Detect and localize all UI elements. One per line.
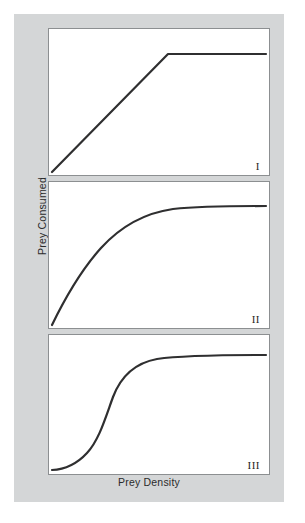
figure-plate: Prey Consumed I II III Prey Density — [14, 14, 284, 502]
credit-strip — [291, 414, 300, 518]
panel-label-2: II — [252, 313, 260, 325]
panel-type-1: I — [48, 28, 270, 176]
y-axis-label: Prey Consumed — [36, 146, 48, 286]
panel-label-1: I — [256, 160, 260, 172]
curve-line-type-3 — [52, 355, 266, 470]
panel-label-3: III — [248, 459, 261, 471]
panel-type-3: III — [48, 334, 270, 475]
curve-line-type-2 — [52, 206, 266, 325]
curve-plot-type-2 — [49, 182, 269, 328]
x-axis-label: Prey Density — [14, 476, 284, 488]
panel-type-2: II — [48, 181, 270, 329]
curve-plot-type-1 — [49, 29, 269, 175]
curve-plot-type-3 — [49, 335, 269, 474]
curve-line-type-1 — [52, 54, 266, 172]
